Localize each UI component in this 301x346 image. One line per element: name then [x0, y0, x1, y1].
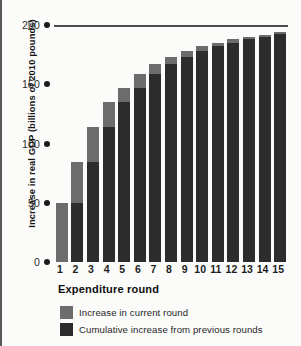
bar-segment-current-round-5 — [118, 88, 130, 102]
legend-label-cumulative: Cumulative increase from previous rounds — [79, 324, 263, 335]
x-tick-label-11: 11 — [208, 263, 224, 275]
y-tick-200: 200 — [2, 19, 54, 31]
bar-segment-cumulative-12 — [227, 43, 239, 262]
bar-round-6 — [134, 74, 146, 262]
y-tick-marker-50 — [44, 200, 50, 206]
bar-segment-cumulative-15 — [274, 34, 286, 262]
bar-segment-cumulative-10 — [196, 51, 208, 262]
y-axis: Increase in real GDP (billions of 2010 p… — [2, 0, 54, 346]
bar-round-12 — [227, 39, 239, 262]
bar-round-14 — [259, 35, 271, 263]
gridline-200 — [54, 25, 288, 27]
bar-segment-current-round-7 — [149, 64, 161, 73]
y-tick-marker-200 — [44, 22, 50, 28]
bar-segment-current-round-4 — [103, 102, 115, 127]
bar-segment-cumulative-14 — [259, 37, 271, 262]
bar-segment-current-round-1 — [56, 203, 68, 262]
y-tick-label-200: 200 — [22, 19, 40, 31]
bar-segment-cumulative-13 — [243, 39, 255, 262]
legend-item-cumulative: Cumulative increase from previous rounds — [60, 323, 263, 336]
bar-round-1 — [56, 203, 68, 262]
bar-segment-cumulative-6 — [134, 88, 146, 262]
chart-figure: Increase in real GDP (billions of 2010 p… — [0, 0, 301, 346]
y-tick-100: 100 — [2, 138, 54, 150]
bar-segment-cumulative-4 — [103, 127, 115, 262]
x-tick-label-9: 9 — [177, 263, 193, 275]
bar-round-10 — [196, 46, 208, 262]
x-axis-title: Expenditure round — [58, 283, 159, 295]
legend-item-current-round: Increase in current round — [60, 306, 263, 319]
x-axis: 123456789101112131415 — [54, 263, 288, 279]
y-tick-label-150: 150 — [22, 78, 40, 90]
x-tick-label-7: 7 — [145, 263, 161, 275]
bar-round-3 — [87, 127, 99, 262]
bar-round-11 — [212, 43, 224, 262]
legend-swatch-cumulative — [60, 323, 73, 336]
y-tick-marker-0 — [44, 259, 50, 265]
legend-swatch-current-round — [60, 306, 73, 319]
bar-round-15 — [274, 32, 286, 262]
y-tick-label-50: 50 — [28, 197, 40, 209]
x-tick-label-15: 15 — [270, 263, 286, 275]
bar-round-9 — [181, 51, 193, 262]
bar-round-7 — [149, 64, 161, 262]
bar-segment-cumulative-8 — [165, 64, 177, 262]
y-tick-50: 50 — [2, 197, 54, 209]
x-tick-label-4: 4 — [99, 263, 115, 275]
y-tick-label-100: 100 — [22, 138, 40, 150]
y-tick-marker-100 — [44, 141, 50, 147]
x-tick-label-6: 6 — [130, 263, 146, 275]
bar-segment-current-round-2 — [71, 162, 83, 202]
bar-round-2 — [71, 162, 83, 262]
y-tick-0: 0 — [2, 256, 54, 268]
bar-segment-current-round-6 — [134, 74, 146, 88]
bar-round-13 — [243, 37, 255, 262]
x-tick-label-13: 13 — [239, 263, 255, 275]
bar-segment-cumulative-9 — [181, 57, 193, 262]
x-tick-label-3: 3 — [83, 263, 99, 275]
y-tick-150: 150 — [2, 78, 54, 90]
bar-segment-cumulative-2 — [71, 203, 83, 262]
x-tick-label-8: 8 — [161, 263, 177, 275]
bar-round-5 — [118, 88, 130, 262]
x-tick-label-1: 1 — [52, 263, 68, 275]
x-tick-label-5: 5 — [114, 263, 130, 275]
x-tick-label-12: 12 — [223, 263, 239, 275]
legend-label-current-round: Increase in current round — [79, 307, 188, 318]
y-tick-marker-150 — [44, 81, 50, 87]
bar-segment-current-round-3 — [87, 127, 99, 163]
bar-segment-cumulative-3 — [87, 162, 99, 262]
x-tick-label-14: 14 — [255, 263, 271, 275]
chart-legend: Increase in current round Cumulative inc… — [60, 306, 263, 340]
bar-round-4 — [103, 102, 115, 262]
bar-segment-cumulative-7 — [149, 74, 161, 262]
plot-area — [54, 25, 288, 262]
bar-segment-current-round-8 — [165, 57, 177, 64]
bar-segment-cumulative-11 — [212, 46, 224, 262]
bar-round-8 — [165, 57, 177, 262]
bar-segment-cumulative-5 — [118, 102, 130, 262]
y-tick-label-0: 0 — [34, 256, 40, 268]
x-tick-label-10: 10 — [192, 263, 208, 275]
x-tick-label-2: 2 — [67, 263, 83, 275]
